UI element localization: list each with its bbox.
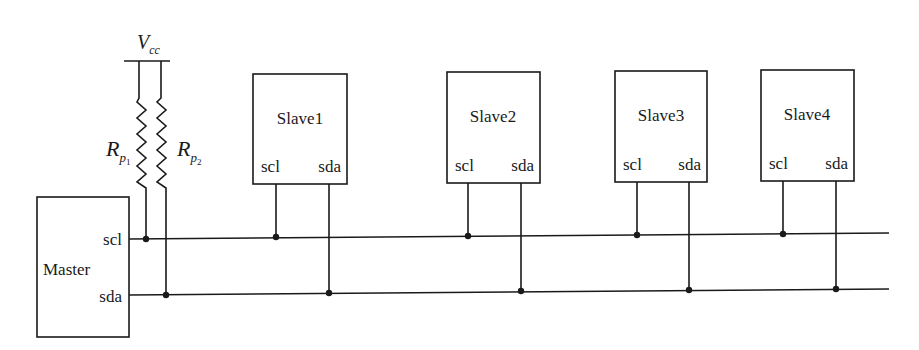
junction-dot [833, 286, 839, 292]
rp2-label: Rp2 [176, 136, 201, 167]
junction-dot [634, 232, 640, 238]
resistor-rp1 [137, 61, 146, 239]
slave4-name-label: Slave4 [784, 105, 831, 124]
junction-dot [143, 236, 149, 242]
master-scl-label: scl [103, 230, 122, 249]
master-name-label: Master [43, 260, 91, 279]
junction-dot [326, 290, 332, 296]
slave3-name-label: Slave3 [638, 106, 684, 125]
slave2-name-label: Slave2 [470, 107, 516, 126]
resistor-rp2 [157, 61, 166, 295]
junction-dot [686, 287, 692, 293]
i2c-diagram: Vcc Rp1 Rp2 scl Master sda Slave1 scl sd… [0, 0, 919, 350]
slave4-scl-label: scl [769, 154, 788, 173]
junction-dot [780, 231, 786, 237]
rp1-label: Rp1 [105, 136, 130, 167]
vcc-label: Vcc [137, 31, 161, 57]
slave4-sda-label: sda [825, 154, 848, 173]
junction-dot [518, 288, 524, 294]
slave3-sda-label: sda [678, 155, 701, 174]
scl-bus-line [129, 233, 889, 239]
master-sda-label: sda [99, 287, 122, 306]
junction-dot [273, 234, 279, 240]
slave2-sda-label: sda [511, 156, 534, 175]
slave1-sda-label: sda [318, 157, 341, 176]
junction-dot [163, 292, 169, 298]
slave2-scl-label: scl [455, 156, 474, 175]
diagram-svg: Vcc Rp1 Rp2 scl Master sda Slave1 scl sd… [0, 0, 919, 350]
slave1-name-label: Slave1 [277, 109, 323, 128]
slave1-scl-label: scl [261, 157, 280, 176]
sda-bus-line [129, 289, 889, 295]
junction-dot [465, 233, 471, 239]
slave3-scl-label: scl [623, 155, 642, 174]
